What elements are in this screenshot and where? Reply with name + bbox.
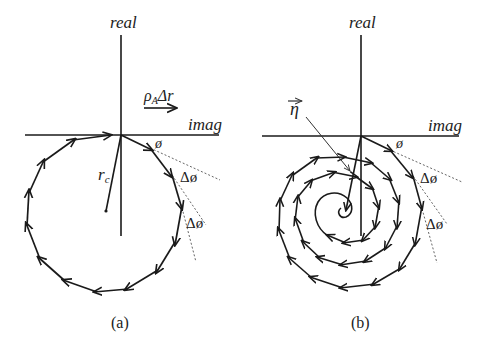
radius-label: rc bbox=[98, 165, 110, 185]
circular-step-path bbox=[26, 135, 182, 292]
eta-annotation: η bbox=[288, 99, 350, 171]
spiral-step-path bbox=[278, 136, 422, 288]
figure-canvas: real imag ρAΔr rc bbox=[0, 0, 486, 339]
delta-phi-label-1: Δø bbox=[420, 170, 437, 186]
real-axis-label: real bbox=[349, 13, 376, 32]
imag-axis-label: imag bbox=[188, 115, 222, 134]
angle-guides bbox=[390, 150, 462, 263]
panel-b: real imag η bbox=[262, 13, 462, 332]
delta-phi-label-2: Δø bbox=[186, 215, 203, 231]
panel-a: real imag ρAΔr rc bbox=[25, 13, 222, 332]
caption-b: (b) bbox=[351, 314, 370, 332]
svg-text:η: η bbox=[290, 99, 299, 119]
imag-axis-label: imag bbox=[428, 116, 462, 135]
angle-guides bbox=[150, 148, 220, 262]
caption-a: (a) bbox=[111, 314, 129, 332]
spiral-inner-curl bbox=[315, 193, 352, 236]
svg-text:ρAΔr: ρAΔr bbox=[143, 87, 174, 106]
delta-phi-label-1: Δø bbox=[180, 169, 197, 185]
phi-label: ø bbox=[395, 136, 404, 151]
real-axis-label: real bbox=[110, 13, 137, 32]
step-vector-legend: ρAΔr bbox=[143, 87, 176, 108]
phi-label: ø bbox=[154, 136, 163, 151]
delta-phi-label-2: Δø bbox=[426, 216, 443, 232]
circle-center bbox=[104, 209, 107, 212]
